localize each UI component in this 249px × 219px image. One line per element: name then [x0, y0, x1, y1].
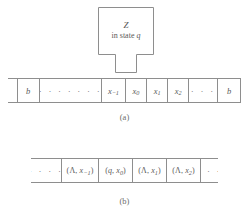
machine-name: Z — [98, 20, 154, 31]
tape-a-cell-left-edge — [8, 79, 18, 102]
tape-b-pair-x-minus-1: (Λ, x−1) — [67, 166, 94, 175]
tape-b-cell-dots-left: · · · · — [31, 159, 62, 182]
tape-a-cell-x-2: x2 — [168, 79, 189, 102]
caption-b: (b) — [0, 196, 249, 206]
caption-a: (a) — [0, 112, 249, 122]
machine-state-symbol: q — [136, 31, 140, 40]
tape-b-dots-right: · · · — [201, 166, 218, 176]
tape-a-cell-x-minus-1: x−1 — [102, 79, 126, 102]
tape-b-pair-x-2-left: Λ — [175, 166, 181, 175]
turing-machine-figure: Z in state q b · · · · · · · x−1 x0 x1 x… — [0, 0, 249, 219]
machine-label: Z in state q — [98, 20, 154, 41]
tape-b-pair-x-1: (Λ, x1) — [138, 166, 161, 175]
tape-b-cell-pair-x-0: (q, x0) — [99, 159, 133, 182]
tape-b-cell-pair-x-2: (Λ, x2) — [167, 159, 201, 182]
tape-a: b · · · · · · · x−1 x0 x1 x2 · · · b — [8, 78, 241, 103]
tape-a-dots-left: · · · · · · · — [40, 86, 102, 96]
tape-b-pair-x-minus-1-left: Λ — [69, 166, 75, 175]
tape-b-pair-x-0-sub: 0 — [120, 169, 123, 176]
tape-a-cell-dots-right: · · · — [189, 79, 218, 102]
tape-b-pair-x-1-left: Λ — [141, 166, 147, 175]
tape-a-dots-right: · · · — [191, 86, 216, 96]
tape-a-cell-blank-right: b — [218, 79, 241, 102]
machine-box: Z in state q — [98, 7, 154, 73]
tape-b-pair-x-0-left: q — [108, 166, 112, 175]
tape-b-pair-x-2-sub: 2 — [189, 169, 192, 176]
tape-a-cell-blank-left: b — [18, 79, 40, 102]
tape-b-pair-x-2: (Λ, x2) — [172, 166, 195, 175]
tape-a-symbol-blank-right: b — [227, 86, 231, 96]
tape-a-cell-dots-left: · · · · · · · — [40, 79, 102, 102]
tape-a-symbol-blank-left: b — [26, 86, 30, 96]
tape-b: · · · · (Λ, x−1) (q, x0) (Λ, x1) (Λ, x2)… — [31, 158, 218, 183]
machine-state-prefix: in state — [112, 31, 137, 40]
machine-state: in state q — [98, 31, 154, 41]
tape-b-cell-pair-x-1: (Λ, x1) — [133, 159, 167, 182]
tape-b-pair-x-0: (q, x0) — [105, 166, 126, 175]
tape-b-pair-x-minus-1-sub: −1 — [83, 169, 90, 176]
tape-b-cell-pair-x-minus-1: (Λ, x−1) — [62, 159, 99, 182]
tape-a-symbol-x-2-base: x — [175, 86, 179, 96]
tape-a-cell-x-0: x0 — [126, 79, 147, 102]
tape-b-cell-dots-right: · · · — [201, 159, 218, 182]
tape-b-dots-left: · · · · — [31, 166, 62, 176]
tape-a-cell-x-1: x1 — [147, 79, 168, 102]
tape-b-pair-x-1-sub: 1 — [155, 169, 158, 176]
